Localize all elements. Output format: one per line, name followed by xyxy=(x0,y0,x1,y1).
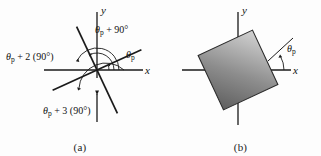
label-theta-p-b: θp xyxy=(287,43,296,56)
panel-a: y x θp θp + 90° θp + 2 (90°) θp + 3 (90°… xyxy=(0,0,160,156)
panel-b: y x θp (b) xyxy=(160,0,321,156)
label-theta-p-plus-3-90: θp + 3 (90°) xyxy=(43,105,90,118)
angle-arc-b xyxy=(280,56,284,70)
panel-a-drawing: y x θp θp + 90° θp + 2 (90°) θp + 3 (90°… xyxy=(0,0,160,156)
panel-b-drawing: y x θp xyxy=(160,0,321,156)
caption-a: (a) xyxy=(0,141,160,153)
label-theta-p-plus-90: θp + 90° xyxy=(95,24,128,37)
principal-square xyxy=(198,30,278,110)
label-theta-p-a: θp xyxy=(126,49,135,62)
angle-arc-1 xyxy=(108,65,109,70)
x-axis-label-a: x xyxy=(144,64,150,76)
y-axis-label-b: y xyxy=(241,4,247,16)
angle-arc-b-head xyxy=(278,55,282,58)
x-axis-label-b: x xyxy=(292,64,298,76)
angle-arc-3 xyxy=(77,48,119,70)
caption-b: (b) xyxy=(160,141,321,153)
y-axis-label-a: y xyxy=(100,4,106,16)
label-theta-p-plus-2-90: θp + 2 (90°) xyxy=(6,51,53,64)
figure-root: y x θp θp + 90° θp + 2 (90°) θp + 3 (90°… xyxy=(0,0,321,156)
